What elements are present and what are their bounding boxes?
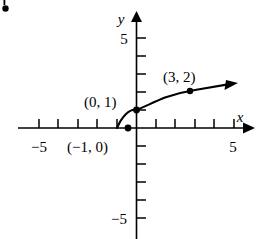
point-marker-0-1 (133, 107, 140, 114)
annotation-label-3-2: (3, 2) (163, 69, 196, 86)
x-axis-arrow-icon (243, 123, 255, 134)
point-marker-3-2 (187, 88, 193, 94)
function-curve (117, 84, 228, 128)
point-marker-neg1-0 (125, 125, 132, 132)
y-tick-label--5: −5 (111, 211, 127, 227)
y-axis-label: y (116, 11, 125, 27)
list-bullet-icon (2, 5, 8, 11)
list-bullet-stem-icon (4, 0, 6, 5)
annotation-label-0-1: (0, 1) (84, 94, 117, 111)
y-axis-arrow-icon (131, 11, 142, 22)
x-tick-label-5: 5 (229, 139, 237, 155)
x-axis-label: x (236, 109, 244, 125)
y-tick-label-5: 5 (120, 31, 128, 47)
annotation-label-neg1-0: (−1, 0) (67, 139, 108, 156)
coordinate-plane: y x −5 5 5 −5 (0, 1) (−1, 0) (3, 2) (0, 0, 261, 239)
x-tick-label--5: −5 (31, 139, 47, 155)
curve-arrow-icon (225, 80, 239, 90)
graph-figure: y x −5 5 5 −5 (0, 1) (−1, 0) (3, 2) (0, 0, 261, 239)
